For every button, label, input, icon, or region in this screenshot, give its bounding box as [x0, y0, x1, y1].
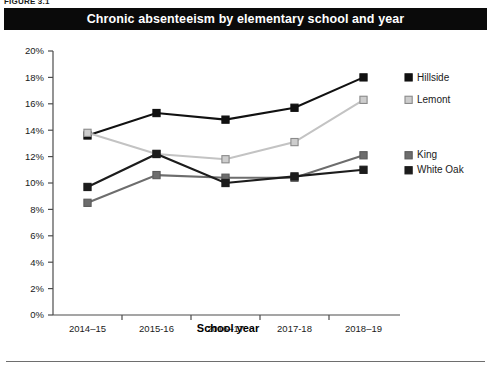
figure-title-bar: Chronic absenteeism by elementary school… — [4, 8, 487, 30]
data-point-marker — [360, 166, 367, 173]
legend-swatch — [405, 74, 412, 81]
chart-plot-area: 0%2%4%6%8%10%12%14%16%18%20% 2014–152015… — [0, 30, 491, 340]
data-point-marker — [153, 150, 160, 157]
legend-item-king[interactable]: King — [405, 149, 437, 160]
y-axis-tick-label: 20% — [25, 45, 45, 56]
legend-item-hillside[interactable]: Hillside — [405, 72, 450, 83]
y-axis-tick-label: 18% — [25, 72, 45, 83]
legend-item-white-oak[interactable]: White Oak — [405, 164, 465, 175]
data-point-marker — [84, 183, 91, 190]
legend-swatch — [405, 96, 412, 103]
series-line — [88, 77, 364, 135]
y-axis-tick-label: 2% — [30, 283, 44, 294]
figure-number: FIGURE 3.1 — [4, 0, 50, 6]
x-axis-title: School year — [197, 322, 260, 334]
data-point-marker — [360, 96, 367, 103]
data-point-marker — [222, 116, 229, 123]
data-point-marker — [360, 74, 367, 81]
legend-item-lemont[interactable]: Lemont — [405, 94, 451, 105]
x-axis-tick-label: 2014–15 — [69, 323, 106, 334]
figure-title: Chronic absenteeism by elementary school… — [4, 8, 487, 30]
series-lemont — [84, 96, 367, 163]
data-point-marker — [291, 138, 298, 145]
data-point-marker — [84, 129, 91, 136]
y-axis-tick-label: 8% — [30, 204, 44, 215]
legend-swatch — [405, 152, 412, 159]
x-axis-tick-label: 2017-18 — [277, 323, 312, 334]
y-axis-tick-label: 6% — [30, 230, 44, 241]
data-point-marker — [153, 171, 160, 178]
chart-legend: HillsideLemontKingWhite Oak — [405, 72, 465, 176]
x-axis-tick-label: 2018–19 — [345, 323, 382, 334]
figure-container: FIGURE 3.1 Chronic absenteeism by elemen… — [0, 0, 491, 370]
y-axis-tick-label: 4% — [30, 257, 44, 268]
line-chart: 0%2%4%6%8%10%12%14%16%18%20% 2014–152015… — [0, 30, 491, 340]
data-point-marker — [291, 104, 298, 111]
legend-label: White Oak — [417, 164, 465, 175]
y-axis: 0%2%4%6%8%10%12%14%16%18%20% — [25, 45, 53, 320]
bottom-divider — [6, 361, 485, 362]
y-axis-tick-label: 10% — [25, 177, 45, 188]
legend-swatch — [405, 167, 412, 174]
x-axis-tick-label: 2015-16 — [139, 323, 174, 334]
series-hillside — [84, 74, 367, 139]
y-axis-tick-label: 12% — [25, 151, 45, 162]
y-axis-tick-label: 0% — [30, 309, 44, 320]
series-line — [88, 100, 364, 159]
data-point-marker — [222, 179, 229, 186]
data-point-marker — [360, 152, 367, 159]
legend-label: Hillside — [417, 72, 450, 83]
data-series-group — [84, 74, 367, 207]
legend-label: King — [417, 149, 437, 160]
data-point-marker — [291, 173, 298, 180]
data-point-marker — [84, 199, 91, 206]
data-point-marker — [222, 156, 229, 163]
legend-label: Lemont — [417, 94, 451, 105]
y-axis-tick-label: 14% — [25, 125, 45, 136]
y-axis-tick-label: 16% — [25, 98, 45, 109]
data-point-marker — [153, 109, 160, 116]
